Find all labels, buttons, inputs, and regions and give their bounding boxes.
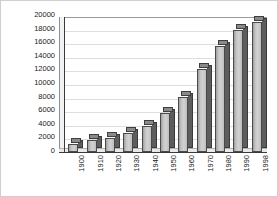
bar[interactable] xyxy=(233,25,248,152)
bar[interactable] xyxy=(142,121,157,152)
y-axis-tick-label: 14000 xyxy=(22,52,55,60)
bar-top-face xyxy=(107,132,117,137)
bar-side-face xyxy=(188,93,193,148)
bar[interactable] xyxy=(252,17,267,152)
bar-top-face xyxy=(163,107,173,112)
bar-side-face xyxy=(225,42,230,148)
bar-front-face xyxy=(215,46,225,152)
y-axis-tick-label: 10000 xyxy=(22,79,55,87)
bar-front-face xyxy=(233,30,243,152)
bar-side-face xyxy=(207,65,212,148)
x-axis-tick-label: 1930 xyxy=(132,155,141,191)
x-axis-tick-label: 1970 xyxy=(206,155,215,191)
bar-top-face xyxy=(218,40,228,45)
bar[interactable] xyxy=(68,139,83,152)
bar-front-face xyxy=(178,97,188,152)
bar-front-face xyxy=(68,144,78,152)
bar[interactable] xyxy=(178,92,193,152)
x-axis-tick-labels: 1900191019201930194019501960197019801990… xyxy=(59,155,267,197)
x-axis-tick-label: 1940 xyxy=(151,155,160,191)
plot-area xyxy=(59,17,267,153)
x-axis-tick-label: 1920 xyxy=(114,155,123,191)
y-axis-tick-label: 6000 xyxy=(22,106,55,114)
x-axis-tick-label: 1990 xyxy=(242,155,251,191)
bar-top-face xyxy=(236,24,246,29)
bar-side-face xyxy=(152,122,157,148)
bar-series xyxy=(65,17,267,153)
bar-front-face xyxy=(87,140,97,152)
bar-front-face xyxy=(142,126,152,152)
bar-side-face xyxy=(243,26,248,148)
y-axis-tick-label: 2000 xyxy=(22,133,55,141)
x-axis-tick-label: 1998 xyxy=(261,155,270,191)
bar-top-face xyxy=(254,16,264,21)
y-axis-tick-label: 0 xyxy=(22,147,55,155)
x-axis-tick-label: 1910 xyxy=(96,155,105,191)
y-axis-tick-label: 16000 xyxy=(22,38,55,46)
x-axis-tick-label: 1900 xyxy=(77,155,86,191)
bar-chart: In Thousands 20000 18000 16000 14000 120… xyxy=(0,0,278,197)
bar-front-face xyxy=(160,113,170,152)
bar-side-face xyxy=(262,18,267,148)
bar-side-face xyxy=(170,109,175,148)
bar[interactable] xyxy=(87,135,102,152)
bar-front-face xyxy=(105,138,115,152)
bar-top-face xyxy=(89,134,99,139)
y-axis-tick-label: 4000 xyxy=(22,120,55,128)
y-axis-tick-label: 12000 xyxy=(22,65,55,73)
x-axis-tick-label: 1950 xyxy=(169,155,178,191)
bar[interactable] xyxy=(123,128,138,152)
y-axis-tick-label: 18000 xyxy=(22,25,55,33)
bar-top-face xyxy=(144,120,154,125)
bar-top-face xyxy=(199,63,209,68)
y-axis-tick-labels: 20000 18000 16000 14000 12000 10000 8000… xyxy=(22,11,55,157)
bar-top-face xyxy=(181,91,191,96)
bar[interactable] xyxy=(160,108,175,152)
bar-top-face xyxy=(71,138,81,143)
y-axis-tick-label: 20000 xyxy=(22,11,55,19)
bar-top-face xyxy=(126,127,136,132)
y-axis-tick-label: 8000 xyxy=(22,93,55,101)
bar[interactable] xyxy=(105,133,120,152)
bar-front-face xyxy=(252,22,262,152)
bar-front-face xyxy=(197,69,207,152)
x-axis-tick-label: 1980 xyxy=(224,155,233,191)
bar[interactable] xyxy=(215,41,230,152)
x-axis-tick-label: 1960 xyxy=(187,155,196,191)
bar[interactable] xyxy=(197,64,212,152)
bar-front-face xyxy=(123,133,133,152)
